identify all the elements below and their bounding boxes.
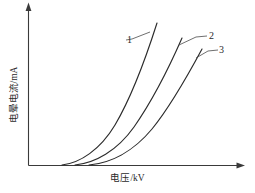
curve-1-path (62, 23, 157, 165)
curve-3-label: 3 (219, 45, 224, 55)
x-axis-title: 电压/kV (0, 170, 255, 184)
corona-current-voltage-figure: 1 2 3 电压/kV 电晕电流/mA (0, 0, 255, 193)
curve-2-leader-line (179, 36, 207, 45)
y-axis-title: 电晕电流/mA (6, 45, 20, 145)
plot-canvas (0, 0, 255, 193)
y-axis-arrow-icon (26, 3, 32, 12)
curve-3-path (89, 49, 202, 165)
curve-2-label: 2 (209, 31, 214, 41)
curve-2-path (75, 38, 182, 165)
curve-1-label: 1 (127, 35, 132, 45)
x-axis-arrow-icon (237, 163, 246, 169)
